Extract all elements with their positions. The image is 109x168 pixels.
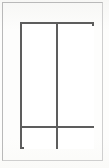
top-left-panel-label [24,26,56,126]
top-left-panel [24,26,56,126]
top-right-panel-label [58,26,94,126]
outer-rectangle [20,22,94,149]
drawing-canvas [0,0,109,168]
bottom-left-panel-label [24,128,56,149]
top-right-panel [58,26,94,126]
bottom-right-panel-label [58,128,94,149]
bottom-left-panel [24,128,56,149]
vertical-divider [56,24,58,147]
horizontal-divider [22,126,92,128]
bottom-right-panel [58,128,94,149]
